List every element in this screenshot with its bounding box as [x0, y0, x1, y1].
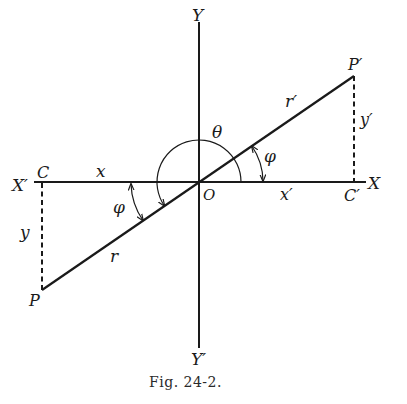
label-x-axis: X	[366, 173, 381, 193]
coordinate-diagram: Y Y′ X X′ O P P′ C C′ x x′ y y′ r r′ θ φ…	[0, 0, 407, 404]
label-origin: O	[203, 186, 215, 204]
label-segment-x: x	[96, 161, 106, 181]
label-angle-phi-right: φ	[264, 146, 276, 166]
phi-arc-right	[252, 146, 263, 181]
diagram-canvas: Y Y′ X X′ O P P′ C C′ x x′ y y′ r r′ θ φ…	[0, 0, 407, 404]
label-segment-r-prime: r′	[285, 91, 297, 111]
label-segment-y-prime: y′	[359, 110, 373, 129]
label-angle-theta: θ	[212, 122, 222, 142]
label-segment-x-prime: x′	[280, 185, 293, 204]
label-x-prime-axis: X′	[10, 175, 28, 195]
label-y-axis: Y	[192, 5, 205, 25]
figure-caption: Fig. 24-2.	[149, 374, 222, 390]
label-point-p: P	[28, 291, 40, 310]
label-segment-r: r	[110, 246, 119, 266]
label-point-c: C	[37, 163, 49, 182]
label-point-c-prime: C′	[344, 186, 360, 205]
label-point-p-prime: P′	[347, 55, 363, 74]
label-angle-phi-left: φ	[113, 197, 125, 217]
phi-arc-left	[131, 184, 143, 221]
label-y-prime-axis: Y′	[191, 349, 206, 369]
label-segment-y: y	[19, 222, 30, 242]
